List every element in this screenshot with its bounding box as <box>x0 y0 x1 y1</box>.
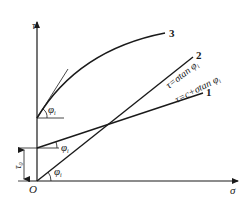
angle-label-3: φi <box>48 103 56 116</box>
line-2 <box>37 57 193 181</box>
y-axis-label: τ <box>32 20 36 31</box>
line-2-label: 2 <box>196 49 202 61</box>
angle-label-2: φi <box>54 165 62 178</box>
origin-label: O <box>29 183 37 195</box>
angle-label-1: φi <box>61 141 69 154</box>
shear-strength-diagram: τ σ O 3 φi 2 τ=σtan φi φi 1 τ=c+σtan φi … <box>0 0 245 203</box>
angle-arc-3 <box>43 109 47 118</box>
intercept-label: τ0 <box>12 162 24 169</box>
curve-3 <box>37 33 165 118</box>
x-axis-label: σ <box>230 184 236 196</box>
angle-arc-2 <box>48 172 51 181</box>
curve-3-label: 3 <box>169 27 175 39</box>
angle-arc-1 <box>56 142 57 148</box>
